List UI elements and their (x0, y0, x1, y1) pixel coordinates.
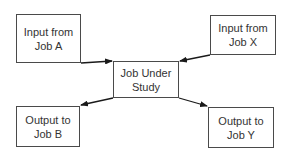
arrow-input-x-to-center (180, 55, 210, 61)
arrow-center-to-output-y (179, 98, 207, 106)
node-label: Input from Job A (24, 25, 74, 53)
node-label: Output to Job Y (218, 114, 263, 142)
node-label: Output to Job B (25, 113, 70, 141)
node-input-job-x: Input from Job X (210, 15, 276, 55)
node-output-job-y: Output to Job Y (208, 107, 274, 148)
arrow-center-to-output-b (81, 98, 113, 105)
node-job-under-study: Job Under Study (113, 61, 179, 98)
node-output-job-b: Output to Job B (16, 106, 80, 147)
node-input-job-a: Input from Job A (16, 14, 81, 63)
arrow-input-a-to-center (81, 61, 112, 63)
node-label: Job Under Study (121, 66, 172, 94)
node-label: Input from Job X (218, 21, 268, 49)
